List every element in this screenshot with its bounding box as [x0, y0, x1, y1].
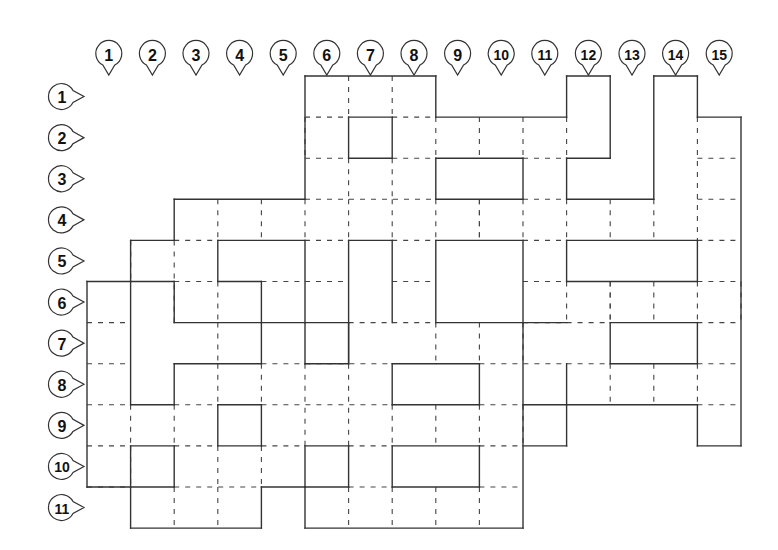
- row-marker-2: 2: [48, 125, 84, 151]
- row-label: 9: [58, 418, 67, 435]
- row-marker-10: 10: [48, 453, 84, 479]
- row-label: 6: [58, 295, 67, 312]
- column-marker-13: 13: [619, 40, 645, 75]
- column-label: 14: [668, 47, 684, 63]
- column-label: 15: [711, 47, 727, 63]
- row-label: 5: [58, 253, 67, 270]
- row-label: 7: [58, 336, 67, 353]
- column-label: 7: [366, 47, 375, 64]
- column-marker-6: 6: [314, 40, 340, 75]
- column-marker-4: 4: [227, 40, 253, 75]
- column-label: 9: [453, 47, 462, 64]
- column-marker-9: 9: [445, 40, 471, 75]
- row-marker-9: 9: [48, 412, 84, 438]
- row-label: 10: [54, 459, 70, 475]
- row-label: 3: [58, 171, 67, 188]
- row-markers: 1234567891011: [48, 84, 84, 521]
- row-marker-7: 7: [48, 330, 84, 356]
- column-label: 10: [493, 47, 509, 63]
- column-marker-11: 11: [532, 40, 558, 75]
- row-marker-3: 3: [48, 166, 84, 192]
- column-label: 4: [235, 47, 244, 64]
- column-label: 3: [192, 47, 201, 64]
- seating-grid-diagram: 123456789101112131415 1234567891011: [0, 0, 778, 550]
- row-label: 2: [58, 130, 67, 147]
- column-marker-7: 7: [357, 40, 383, 75]
- column-marker-5: 5: [270, 40, 296, 75]
- row-label: 4: [58, 212, 67, 229]
- column-label: 12: [581, 47, 597, 63]
- column-marker-8: 8: [401, 40, 427, 75]
- column-label: 1: [104, 47, 113, 64]
- row-marker-6: 6: [48, 289, 84, 315]
- column-marker-3: 3: [183, 40, 209, 75]
- row-marker-5: 5: [48, 248, 84, 274]
- column-marker-10: 10: [488, 40, 514, 75]
- column-markers: 123456789101112131415: [96, 40, 732, 75]
- cell-dividers: [87, 76, 741, 528]
- column-label: 5: [279, 47, 288, 64]
- column-marker-12: 12: [575, 40, 601, 75]
- block-walls: [87, 76, 741, 528]
- column-marker-1: 1: [96, 40, 122, 75]
- row-label: 11: [55, 501, 70, 517]
- row-label: 8: [58, 377, 67, 394]
- column-marker-2: 2: [139, 40, 165, 75]
- row-label: 1: [58, 89, 67, 106]
- column-label: 13: [624, 47, 640, 63]
- column-label: 11: [537, 47, 552, 63]
- row-marker-4: 4: [48, 207, 84, 233]
- column-label: 6: [322, 47, 331, 64]
- column-label: 8: [410, 47, 419, 64]
- column-marker-14: 14: [663, 40, 689, 75]
- column-marker-15: 15: [706, 40, 732, 75]
- row-marker-8: 8: [48, 371, 84, 397]
- row-marker-11: 11: [48, 495, 84, 521]
- column-label: 2: [148, 47, 157, 64]
- row-marker-1: 1: [48, 84, 84, 110]
